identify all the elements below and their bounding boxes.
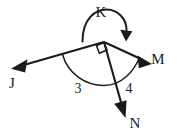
ray-j-line	[22, 42, 104, 66]
ray-j-arrowhead	[11, 59, 28, 72]
right-angle-square	[97, 43, 108, 54]
geometry-figure: K J M N 3 4	[0, 0, 178, 135]
ray-n-line	[104, 42, 122, 104]
ray-n-arrowhead	[114, 100, 126, 118]
label-j: J	[9, 75, 15, 91]
label-k: K	[96, 4, 107, 20]
ray-j	[11, 42, 104, 73]
label-angle-4: 4	[126, 81, 133, 96]
ray-m-line	[104, 42, 142, 60]
turn-arc-k-arrowhead	[120, 30, 132, 42]
right-angle-square-shape	[97, 43, 108, 54]
label-n: N	[130, 115, 141, 131]
ray-m-arrowhead	[138, 56, 153, 69]
label-angle-3: 3	[75, 81, 82, 96]
label-m: M	[151, 51, 164, 67]
turn-arc-k	[83, 10, 133, 42]
geometry-diagram-canvas: K J M N 3 4	[0, 0, 178, 135]
